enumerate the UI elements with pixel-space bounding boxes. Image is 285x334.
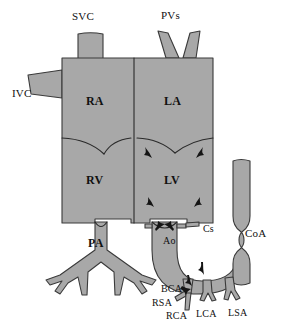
heart-diagram-figure: SVC PVs IVC RA LA RV LV PA Ao Cs CoA BCA… [0, 0, 285, 334]
heart-anatomy-illustration [0, 0, 285, 334]
label-ivc: IVC [12, 88, 32, 99]
label-rsa: RSA [152, 298, 172, 308]
label-la: LA [164, 95, 181, 107]
label-rca: RCA [166, 311, 187, 321]
descending-aorta-coarctation [233, 160, 250, 286]
label-pa: PA [88, 237, 104, 249]
label-cs: Cs [203, 224, 214, 234]
aortic-valve-cusp-left [145, 224, 152, 228]
label-lsa: LSA [228, 308, 248, 318]
label-lv: LV [164, 174, 180, 186]
coronary-sinus-vessel [186, 222, 199, 227]
ivc-vessel [28, 70, 62, 98]
pulmonary-artery [46, 222, 156, 295]
pulmonary-vein-right [158, 31, 179, 58]
label-svc: SVC [72, 11, 94, 22]
label-rv: RV [86, 174, 103, 186]
label-lca: LCA [196, 309, 217, 319]
label-bca: BCA [161, 284, 182, 294]
label-pvs: PVs [161, 10, 180, 21]
pulmonary-vein-left [183, 31, 200, 58]
aortic-valve-cusp-right [177, 224, 186, 228]
label-coa: CoA [245, 228, 266, 239]
label-ra: RA [86, 95, 104, 107]
arrow-coarctation-site [198, 262, 204, 275]
label-ao: Ao [163, 236, 176, 246]
rca-vessel [185, 293, 191, 310]
svc-vessel [78, 33, 103, 60]
heart-chambers-block [62, 58, 213, 223]
